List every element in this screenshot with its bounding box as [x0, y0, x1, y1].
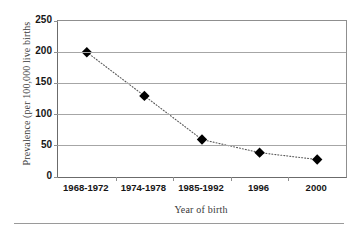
x-axis-tick-label: 1968-1972 — [63, 182, 108, 193]
x-axis-tick-label: 1985-1992 — [178, 182, 223, 193]
y-axis-tick-label: 0 — [22, 171, 52, 181]
x-axis-tick-mark — [288, 177, 289, 181]
gridline — [58, 114, 346, 115]
bottom-divider — [14, 223, 344, 224]
plot-area — [57, 20, 347, 178]
y-axis-tick-mark — [54, 83, 58, 84]
y-axis-tick-mark — [54, 177, 58, 178]
plot-inner — [58, 21, 346, 177]
gridline — [58, 145, 346, 146]
data-point-marker — [139, 91, 149, 101]
y-axis-tick-label: 50 — [22, 140, 52, 150]
x-axis-tick-mark — [173, 177, 174, 181]
y-axis-tick-mark — [54, 145, 58, 146]
gridline — [58, 83, 346, 84]
y-axis-tick-labels: 050100150200250 — [22, 14, 52, 176]
y-axis-tick-label: 100 — [22, 109, 52, 119]
y-axis-tick-mark — [54, 21, 58, 22]
data-series-layer — [58, 21, 346, 177]
x-axis-title: Year of birth — [57, 204, 345, 215]
x-axis-tick-label: 1996 — [248, 182, 269, 193]
y-axis-tick-mark — [54, 114, 58, 115]
y-axis-tick-label: 150 — [22, 77, 52, 87]
y-axis-tick-label: 250 — [22, 15, 52, 25]
x-axis-tick-label: 1974-1978 — [121, 182, 166, 193]
x-axis-tick-labels: 1968-19721974-19781985-199219962000 — [57, 182, 345, 196]
gridline — [58, 52, 346, 53]
x-axis-tick-label: 2000 — [306, 182, 327, 193]
y-axis-tick-mark — [54, 52, 58, 53]
y-axis-tick-label: 200 — [22, 46, 52, 56]
data-point-marker — [254, 147, 264, 157]
x-axis-tick-mark — [116, 177, 117, 181]
data-point-marker — [312, 154, 322, 164]
x-axis-tick-mark — [231, 177, 232, 181]
data-point-marker — [197, 134, 207, 144]
chart-figure: Prevalence (per 100,000 live births 0501… — [0, 0, 356, 231]
